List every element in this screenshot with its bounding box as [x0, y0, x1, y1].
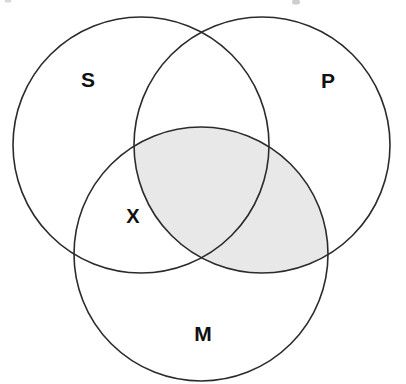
set-label-m: M — [194, 322, 212, 345]
venn-diagram: S P M X — [0, 0, 406, 384]
region-mark-x: X — [126, 205, 140, 227]
venn-diagram-canvas: S P M X — [0, 0, 406, 384]
set-label-s: S — [81, 68, 95, 91]
set-label-p: P — [321, 69, 335, 92]
